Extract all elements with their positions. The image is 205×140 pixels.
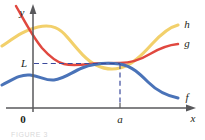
y-axis-label: y bbox=[19, 6, 25, 18]
curve-g bbox=[16, 6, 178, 65]
curve-h bbox=[2, 25, 178, 69]
curve-label-f: f bbox=[185, 91, 190, 103]
figure-caption: FIGURE 3 bbox=[11, 130, 48, 138]
x-axis-label: x bbox=[190, 112, 196, 124]
y-axis-arrowhead bbox=[30, 4, 37, 14]
x-tick-label-a: a bbox=[117, 113, 123, 125]
curve-label-h: h bbox=[184, 18, 190, 30]
x-axis-arrowhead bbox=[186, 105, 196, 112]
figure-container: y x 0 a L h g f FIGURE 3 bbox=[0, 0, 205, 140]
origin-label: 0 bbox=[20, 113, 26, 125]
curve-label-g: g bbox=[184, 37, 190, 49]
y-level-label-L: L bbox=[20, 57, 27, 69]
curve-f bbox=[2, 63, 178, 98]
squeeze-theorem-plot: y x 0 a L h g f bbox=[0, 0, 205, 140]
